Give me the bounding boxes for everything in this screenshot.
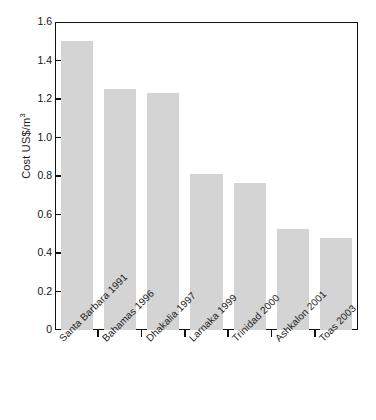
y-tick-label: 1.4 bbox=[0, 55, 52, 66]
y-tick-label: 0.8 bbox=[0, 170, 52, 181]
x-tick-mark bbox=[184, 330, 186, 337]
x-tick-mark bbox=[314, 330, 316, 337]
y-tick-mark bbox=[55, 291, 61, 292]
x-tick-mark bbox=[97, 330, 99, 337]
y-tick-label: 0.2 bbox=[0, 286, 52, 297]
y-tick-mark bbox=[55, 175, 61, 176]
y-tick-mark bbox=[55, 98, 61, 99]
y-tick-label: 1.6 bbox=[0, 16, 52, 27]
y-axis-title-superscript: 3 bbox=[18, 113, 27, 117]
bar bbox=[61, 41, 93, 330]
y-tick-label: 0.6 bbox=[0, 209, 52, 220]
y-tick-label: 1.2 bbox=[0, 93, 52, 104]
y-tick-label: 1.0 bbox=[0, 132, 52, 143]
y-tick-mark bbox=[55, 137, 61, 138]
y-tick-mark bbox=[55, 252, 61, 253]
y-tick-mark bbox=[55, 60, 61, 61]
x-tick-mark bbox=[227, 330, 229, 337]
bars-layer bbox=[55, 22, 358, 330]
x-tick-mark bbox=[141, 330, 143, 337]
y-tick-label: 0 bbox=[0, 324, 52, 335]
y-tick-mark bbox=[55, 214, 61, 215]
y-tick-label: 0.4 bbox=[0, 247, 52, 258]
bar-chart-figure: Cost US$/m3 00.20.40.60.81.01.21.41.6 Sa… bbox=[0, 0, 376, 420]
